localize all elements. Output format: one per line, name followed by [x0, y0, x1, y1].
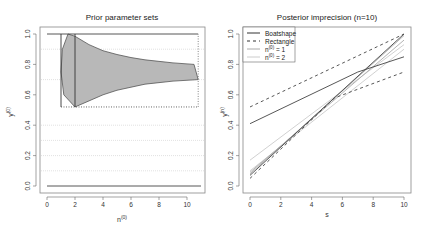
left-y-axis-label: y(0) [5, 107, 15, 117]
y-tick-label: 0.6 [227, 90, 234, 99]
right-x-axis: 0246810 [248, 197, 408, 208]
right-x-axis-label: s [325, 211, 329, 218]
x-tick-label: 6 [129, 201, 133, 208]
y-tick-label: 0.8 [227, 60, 234, 69]
legend: Boatshape Rectangle n(0) = 1 n(0) = 2 [243, 27, 296, 62]
y-tick-label: 0.2 [24, 151, 31, 160]
series-line [250, 72, 404, 178]
y-tick-label: 1.0 [24, 29, 31, 38]
left-plot-title: Prior parameter sets [86, 13, 158, 22]
x-tick-label: 0 [45, 201, 49, 208]
x-tick-label: 6 [341, 201, 345, 208]
left-x-axis: 0246810 [45, 197, 191, 208]
y-tick-label: 0.0 [24, 181, 31, 190]
x-tick-label: 8 [157, 201, 161, 208]
x-tick-label: 8 [371, 201, 375, 208]
left-x-axis-label: n(0) [117, 214, 127, 223]
right-y-axis-label: y(n) [219, 107, 229, 117]
y-tick-label: 0.8 [24, 60, 31, 69]
y-tick-label: 0.2 [227, 151, 234, 160]
legend-n2-label: n(0) = 2 [265, 53, 286, 61]
series-line [250, 57, 404, 124]
y-tick-label: 0.4 [227, 120, 234, 129]
y-tick-label: 1.0 [227, 29, 234, 38]
legend-boatshape-label: Boatshape [265, 30, 296, 38]
y-tick-label: 0.6 [24, 90, 31, 99]
y-tick-label: 0.4 [24, 120, 31, 129]
left-panel: Prior parameter sets 0246810 0.00.20.40.… [5, 13, 205, 223]
x-tick-label: 4 [101, 201, 105, 208]
y-tick-label: 0.0 [227, 181, 234, 190]
right-y-axis: 0.00.20.40.60.81.0 [227, 29, 239, 190]
right-plot-title: Posterior imprecision (n=10) [277, 13, 378, 22]
figure: Prior parameter sets 0246810 0.00.20.40.… [0, 0, 422, 229]
x-tick-label: 4 [310, 201, 314, 208]
x-tick-label: 2 [73, 201, 77, 208]
x-tick-label: 2 [279, 201, 283, 208]
x-tick-label: 10 [400, 201, 408, 208]
left-y-axis: 0.00.20.40.60.81.0 [24, 29, 36, 190]
right-panel: Posterior imprecision (n=10) 0246810 0.0… [219, 13, 411, 218]
x-tick-label: 0 [248, 201, 252, 208]
boatshape-region [61, 34, 198, 107]
legend-n1-label: n(0) = 1 [265, 45, 286, 53]
x-tick-label: 10 [183, 201, 191, 208]
